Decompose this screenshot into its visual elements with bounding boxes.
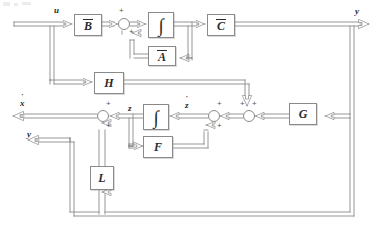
sign-plus: +	[106, 122, 111, 130]
block-G-label: G	[299, 108, 308, 120]
block-F: F	[143, 136, 173, 158]
signal-label-u: u	[54, 6, 59, 15]
block-integrator-observer: ∫	[143, 104, 169, 130]
block-A-label: A	[158, 50, 166, 63]
diagram-wiring	[0, 0, 381, 244]
sign-plus: +	[119, 7, 124, 15]
signal-label-y-lower: y	[27, 130, 31, 139]
sign-plus: +	[129, 28, 134, 36]
block-C-label: C	[217, 19, 225, 32]
sign-plus: +	[252, 100, 257, 108]
signal-label-z-dot: ˙z	[185, 101, 189, 110]
block-B-label: B	[84, 19, 92, 32]
block-L: L	[90, 166, 114, 190]
summing-junction-observer-right	[243, 110, 255, 122]
block-C: C	[207, 14, 235, 36]
block-A: A	[148, 46, 176, 66]
block-diagram-canvas: B ∫ A C H ∫ F L G + + + + + + + + u y	[0, 0, 381, 244]
signal-label-y: y	[355, 7, 359, 16]
block-B: B	[74, 14, 102, 36]
block-H-label: H	[104, 77, 113, 89]
block-L-label: L	[98, 172, 105, 184]
signal-label-z: z	[128, 104, 132, 113]
integrator-symbol: ∫	[158, 16, 163, 35]
sign-plus: +	[217, 122, 222, 130]
signal-label-x-hat: ˙x	[20, 99, 25, 108]
z-dot-glyph: ˙z	[185, 101, 189, 110]
sign-plus: +	[240, 100, 245, 108]
x-hat-glyph: ˙x	[20, 99, 25, 108]
block-integrator-plant: ∫	[148, 12, 174, 38]
block-G: G	[289, 103, 317, 125]
sign-plus: +	[217, 100, 222, 108]
block-F-label: F	[154, 141, 162, 153]
integrator-symbol: ∫	[153, 108, 158, 127]
z-glyph: z	[128, 104, 132, 113]
sign-plus: +	[106, 100, 111, 108]
block-H: H	[94, 72, 124, 94]
